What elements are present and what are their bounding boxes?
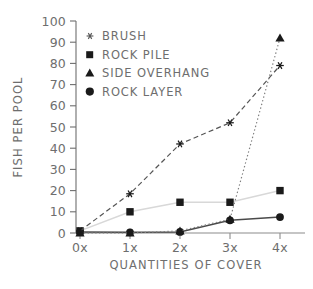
legend-label-rock-pile: ROCK PILE <box>102 48 170 62</box>
data-point-rock-pile-4x <box>276 187 283 194</box>
y-tick-label: 40 <box>50 141 66 156</box>
legend-label-brush: BRUSH <box>102 29 147 43</box>
y-tick-label: 20 <box>50 183 66 198</box>
y-tick-label: 80 <box>50 56 66 71</box>
data-point-rock-pile-3x <box>226 199 233 206</box>
x-tick-label: 2x <box>172 240 188 255</box>
data-point-rock-layer-4x <box>276 213 284 221</box>
y-tick-label: 100 <box>42 14 66 29</box>
y-tick-label: 90 <box>50 35 66 50</box>
chart-container: 100 90 80 70 60 50 40 30 20 10 0 FISH PE… <box>0 0 313 289</box>
chart-background <box>0 0 313 289</box>
x-tick-label: 1x <box>122 240 138 255</box>
y-tick-label: 50 <box>50 120 66 135</box>
circle-marker-icon <box>86 88 94 96</box>
legend-label-side-overhang: SIDE OVERHANG <box>102 66 210 80</box>
y-axis-title: FISH PER POOL <box>11 76 25 177</box>
x-tick-label: 4x <box>272 240 288 255</box>
data-point-rock-pile-1x <box>126 208 133 215</box>
y-tick-label: 0 <box>58 226 66 241</box>
y-tick-label: 10 <box>50 204 66 219</box>
x-axis-title: QUANTITIES OF COVER <box>109 258 262 272</box>
y-tick-label: 70 <box>50 77 66 92</box>
x-tick-label: 3x <box>222 240 238 255</box>
legend-item-side-overhang: SIDE OVERHANG <box>85 66 210 80</box>
square-marker-icon <box>86 51 93 58</box>
x-tick-label: 0x <box>72 240 88 255</box>
y-tick-label: 60 <box>50 98 66 113</box>
y-tick-label: 30 <box>50 162 66 177</box>
data-point-rock-pile-2x <box>176 199 183 206</box>
fish-per-pool-line-chart: 100 90 80 70 60 50 40 30 20 10 0 FISH PE… <box>0 0 313 289</box>
legend-label-rock-layer: ROCK LAYER <box>102 85 183 99</box>
